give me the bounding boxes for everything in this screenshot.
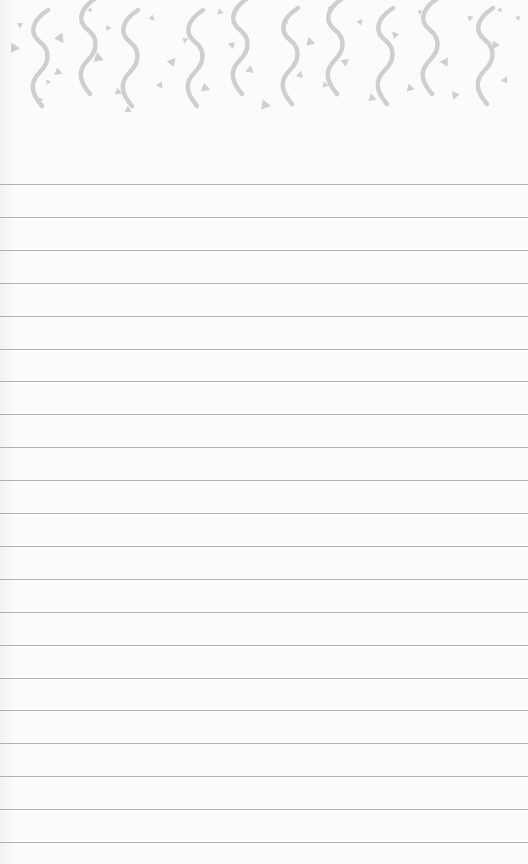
ruled-line: [0, 710, 528, 711]
ruled-line: [0, 381, 528, 382]
ruled-line: [0, 316, 528, 317]
ruled-line: [0, 579, 528, 580]
ruled-line: [0, 283, 528, 284]
ruled-line: [0, 678, 528, 679]
ruled-line: [0, 612, 528, 613]
ruled-line: [0, 480, 528, 481]
ruled-lines: [0, 0, 528, 864]
ruled-line: [0, 513, 528, 514]
ruled-line: [0, 546, 528, 547]
ruled-line: [0, 414, 528, 415]
ruled-line: [0, 447, 528, 448]
ruled-line: [0, 645, 528, 646]
ruled-line: [0, 217, 528, 218]
ruled-line: [0, 842, 528, 843]
ruled-line: [0, 743, 528, 744]
ruled-line: [0, 349, 528, 350]
ruled-line: [0, 809, 528, 810]
ruled-line: [0, 250, 528, 251]
ruled-line: [0, 184, 528, 185]
ruled-line: [0, 776, 528, 777]
